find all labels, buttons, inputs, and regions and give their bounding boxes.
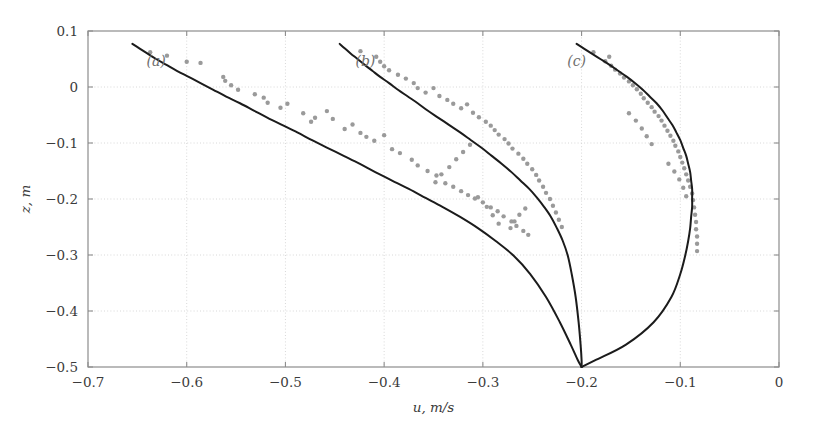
data-point <box>313 116 317 120</box>
data-point <box>382 133 386 137</box>
data-point <box>649 142 653 146</box>
data-point <box>517 212 521 216</box>
data-point <box>253 92 257 96</box>
figure-container: −0.7−0.6−0.5−0.4−0.3−0.2−0.100.10−0.1−0.… <box>0 0 817 422</box>
data-point <box>537 178 541 182</box>
data-point <box>695 234 699 238</box>
data-point <box>681 186 685 190</box>
data-point <box>477 115 481 119</box>
data-point <box>508 226 512 230</box>
data-point <box>262 95 266 99</box>
y-tick-label: 0 <box>69 79 78 95</box>
data-point <box>607 55 611 59</box>
data-point <box>221 75 225 79</box>
data-point <box>471 111 475 115</box>
data-point <box>659 118 663 122</box>
data-point <box>662 123 666 127</box>
data-point <box>382 64 386 68</box>
data-point <box>523 206 527 210</box>
x-tick-label: −0.7 <box>72 374 105 390</box>
data-point <box>459 189 463 193</box>
data-point <box>671 139 675 143</box>
data-point <box>554 210 558 214</box>
data-point <box>514 224 518 228</box>
data-point <box>682 166 686 170</box>
data-point <box>496 221 500 225</box>
data-point <box>481 200 485 204</box>
y-tick-label: −0.3 <box>45 247 78 263</box>
data-point <box>694 220 698 224</box>
data-point <box>331 117 335 121</box>
data-point <box>656 114 660 118</box>
data-point <box>265 100 269 104</box>
data-point <box>223 79 227 83</box>
data-point <box>387 68 391 72</box>
data-point <box>459 106 463 110</box>
data-point <box>236 88 240 92</box>
data-point <box>649 105 653 109</box>
y-tick-label: −0.2 <box>45 191 78 207</box>
data-point <box>684 172 688 176</box>
data-point <box>185 60 189 64</box>
data-point <box>501 214 505 218</box>
data-point <box>285 102 289 106</box>
data-point <box>425 169 429 173</box>
data-point <box>544 191 548 195</box>
data-point <box>198 61 202 65</box>
data-point <box>437 94 441 98</box>
data-point <box>521 156 525 160</box>
data-point <box>678 155 682 159</box>
data-point <box>526 233 530 237</box>
data-point <box>548 197 552 201</box>
data-point <box>416 163 420 167</box>
data-point <box>451 184 455 188</box>
data-point <box>434 173 438 177</box>
data-point <box>404 76 408 80</box>
data-point <box>485 205 489 209</box>
data-point <box>634 118 638 122</box>
data-point <box>694 227 698 231</box>
data-point <box>372 139 376 143</box>
data-point <box>491 213 495 217</box>
data-point <box>476 195 480 199</box>
data-point <box>445 98 449 102</box>
data-point <box>639 92 643 96</box>
data-point <box>350 122 354 126</box>
data-point <box>439 172 443 176</box>
data-point <box>676 149 680 153</box>
x-tick-label: −0.5 <box>269 374 302 390</box>
x-axis-title: u, m/s <box>413 399 455 415</box>
curve-label-b: (b) <box>355 53 375 69</box>
x-tick-label: −0.3 <box>466 374 499 390</box>
data-point <box>301 111 305 115</box>
data-point <box>423 90 427 94</box>
curve-label-c: (c) <box>567 53 586 69</box>
data-point <box>461 150 465 154</box>
data-point <box>342 127 346 131</box>
y-tick-label: 0.1 <box>57 23 78 39</box>
x-tick-label: −0.6 <box>170 374 203 390</box>
data-point <box>541 184 545 188</box>
data-point <box>465 102 469 106</box>
data-point <box>364 135 368 139</box>
data-point <box>646 100 650 104</box>
data-point <box>410 158 414 162</box>
data-point <box>502 137 506 141</box>
x-tick-label: −0.4 <box>368 374 401 390</box>
data-point <box>645 134 649 138</box>
data-point <box>447 165 451 169</box>
data-point <box>398 151 402 155</box>
data-point <box>278 106 282 110</box>
data-point <box>309 120 313 124</box>
data-point <box>378 60 382 64</box>
x-tick-label: 0 <box>775 374 784 390</box>
data-point <box>454 157 458 161</box>
data-point <box>530 167 534 171</box>
data-point <box>431 86 435 90</box>
data-point <box>673 144 677 148</box>
data-point <box>390 147 394 151</box>
data-point <box>652 109 656 113</box>
data-point <box>412 81 416 85</box>
y-axis-title: z, m <box>17 185 33 215</box>
data-point <box>642 96 646 100</box>
